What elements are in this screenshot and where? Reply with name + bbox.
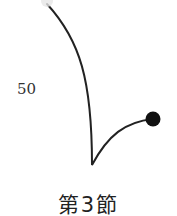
end-marker (146, 112, 161, 127)
chart-title: 第3節 (0, 188, 177, 216)
value-label: 50 (17, 80, 36, 98)
trajectory-plot (0, 0, 177, 216)
start-marker (41, 0, 53, 7)
trajectory-line (47, 4, 153, 165)
